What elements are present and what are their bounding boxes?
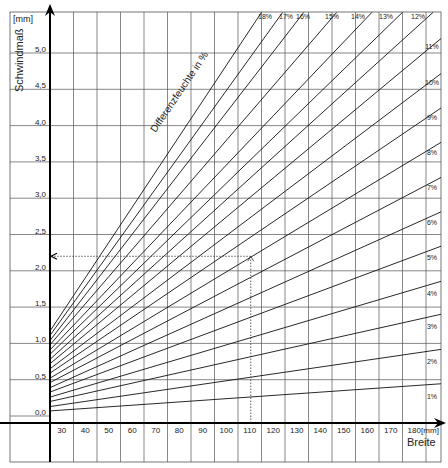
percent-label: 10%: [425, 79, 439, 86]
x-tick-label: 50: [104, 426, 113, 435]
y-tick-label: 5,0: [35, 45, 47, 54]
y-tick-label: 2,5: [35, 227, 47, 236]
percent-line: [50, 209, 447, 388]
percent-line: [50, 139, 447, 379]
y-tick-label: 3,0: [35, 190, 47, 199]
percent-lines: [50, 12, 447, 411]
percent-label: 14%: [351, 13, 365, 20]
percent-line: [50, 33, 447, 363]
y-tick-label: 2,0: [35, 263, 47, 272]
x-tick-label: 30: [57, 426, 66, 435]
x-tick-label: 60: [128, 426, 137, 435]
x-tick-label: 160: [361, 426, 375, 435]
percent-label: 2%: [427, 358, 437, 365]
y-tick-label: 4,0: [35, 118, 47, 127]
x-unit-label: [mm]: [421, 426, 439, 435]
x-tick-label: 180: [408, 426, 422, 435]
x-tick-label: 110: [243, 426, 256, 435]
percent-line: [50, 12, 262, 331]
x-tick-label: 170: [384, 426, 398, 435]
percent-label: 18%: [258, 13, 272, 20]
x-tick-label: 150: [337, 426, 351, 435]
percent-label: 11%: [425, 43, 439, 50]
x-tick-label: 120: [267, 426, 281, 435]
y-axis-title: Schwindmaß: [13, 28, 25, 92]
y-tick-label: 4,5: [35, 81, 47, 90]
y-tick-label: 1,5: [35, 299, 47, 308]
percent-label: 7%: [427, 184, 437, 191]
percent-line: [50, 12, 283, 335]
percent-label: 17%: [279, 13, 293, 20]
percent-label: 1%: [427, 393, 437, 400]
y-tick-label: 0,0: [35, 408, 47, 417]
y-tick-label: 0,5: [35, 372, 47, 381]
percent-label: 6%: [427, 219, 437, 226]
chart-frame: [10, 12, 441, 462]
left-arrow-icon: [51, 253, 57, 259]
percent-line: [50, 174, 447, 382]
y-tick-label: 3,5: [35, 154, 47, 163]
y-tick-label: 1,0: [35, 335, 47, 344]
percent-line: [50, 104, 447, 373]
percent-label: 12%: [411, 13, 425, 20]
x-tick-label: 130: [290, 426, 304, 435]
percent-line: [50, 12, 403, 354]
x-tick-label: 90: [198, 426, 207, 435]
percent-label: 15%: [325, 13, 339, 20]
x-tick-label: 40: [81, 426, 90, 435]
percent-label: 5%: [427, 254, 437, 261]
percent-line: [50, 383, 447, 411]
shrinkage-chart: 0,00,51,01,52,02,53,03,54,04,55,03040506…: [0, 0, 448, 468]
percent-label: 3%: [427, 323, 437, 330]
percent-label: 4%: [427, 290, 437, 297]
x-tick-label: 100: [220, 426, 234, 435]
percent-line: [50, 244, 447, 392]
percent-label: 9%: [427, 114, 437, 121]
x-tick-label: 70: [151, 426, 160, 435]
percent-label: 8%: [427, 149, 437, 156]
y-unit-label: [mm]: [13, 14, 33, 24]
grid: [10, 12, 441, 462]
percent-label: 16%: [296, 13, 310, 20]
x-tick-label: 80: [175, 426, 184, 435]
percent-label: 13%: [379, 13, 393, 20]
percent-line: [50, 12, 372, 350]
percent-line: [50, 12, 304, 340]
x-tick-label: 140: [314, 426, 328, 435]
x-axis-title: Breite: [407, 436, 436, 448]
